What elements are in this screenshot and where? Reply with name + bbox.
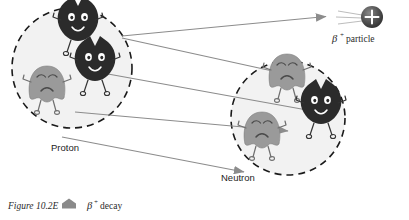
- beta-particle-sup: +: [340, 31, 344, 39]
- caption-text: decay: [100, 201, 122, 211]
- motion-line: [338, 21, 362, 24]
- arrow-proton-to-beta: [122, 17, 326, 37]
- beta-plus-decay-figure: β + particle Proton Neutron Figure 10.2E…: [0, 0, 409, 220]
- caption-beta-symbol: β: [86, 200, 93, 211]
- beta-particle-symbol: β: [331, 33, 338, 44]
- beta-particle-group: [336, 6, 383, 28]
- beta-particle-label: particle: [346, 34, 374, 44]
- arrow-neutron-label: [62, 137, 244, 172]
- pentagon-marker-icon: [62, 199, 76, 209]
- motion-line: [336, 17, 362, 18]
- caption-beta-sup: +: [94, 198, 98, 206]
- motion-line: [338, 11, 362, 15]
- proton-label: Proton: [51, 142, 79, 153]
- figure-number: Figure 10.2E: [7, 201, 59, 211]
- neutron-label: Neutron: [221, 172, 255, 183]
